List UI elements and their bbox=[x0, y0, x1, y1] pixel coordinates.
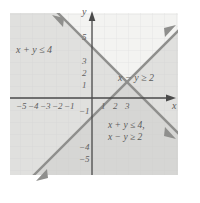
xtick--1: −1 bbox=[64, 101, 75, 111]
ytick-2: 2 bbox=[82, 68, 87, 78]
xtick--4: −4 bbox=[28, 101, 39, 111]
ytick--1: −1 bbox=[79, 106, 90, 116]
x-axis-label: x bbox=[172, 100, 176, 111]
ytick-5: 5 bbox=[82, 32, 87, 42]
ytick-3: 3 bbox=[82, 56, 87, 66]
xtick-2: 2 bbox=[113, 101, 118, 111]
ytick--4: −4 bbox=[79, 142, 90, 152]
annotation-x-minus-y-ge-2: x − y ≥ 2 bbox=[118, 72, 154, 85]
xtick--5: −5 bbox=[16, 101, 27, 111]
xtick--3: −3 bbox=[40, 101, 51, 111]
annotation-system-line2: x − y ≥ 2 bbox=[108, 132, 142, 144]
figure-container: y x −5 −4 −3 −2 −1 1 2 3 5 3 2 1 −1 −4 −… bbox=[0, 0, 200, 203]
xtick-1: 1 bbox=[101, 101, 106, 111]
xtick--2: −2 bbox=[52, 101, 63, 111]
annotation-system-line1: x + y ≤ 4, bbox=[108, 120, 145, 132]
ytick--5: −5 bbox=[79, 154, 90, 164]
ytick-1: 1 bbox=[82, 80, 87, 90]
y-axis-label: y bbox=[82, 6, 86, 17]
xtick-3: 3 bbox=[125, 101, 130, 111]
annotation-x-plus-y-le-4: x + y ≤ 4 bbox=[16, 44, 52, 57]
